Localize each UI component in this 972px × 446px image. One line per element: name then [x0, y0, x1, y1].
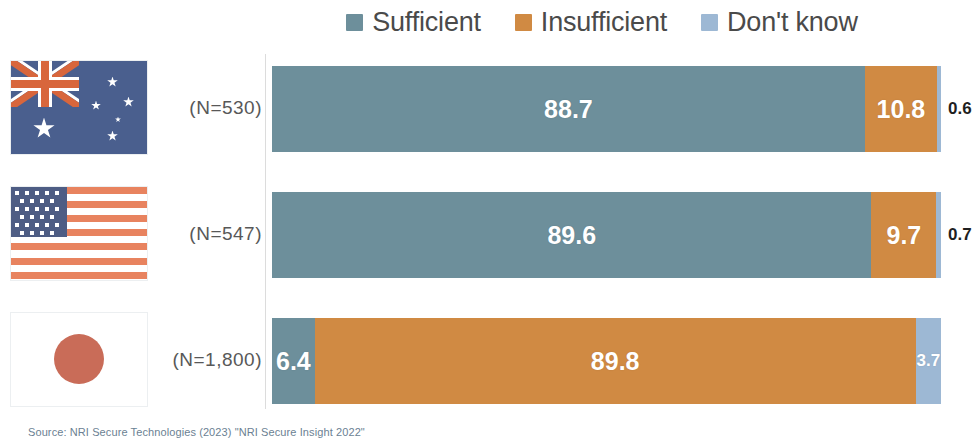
segment-value-sufficient: 88.7	[544, 95, 593, 124]
legend-item-insufficient: Insufficient	[515, 7, 667, 38]
legend-swatch-dont-know	[701, 14, 718, 31]
segment-value-insufficient: 9.7	[886, 221, 921, 250]
bar-japan: 6.4 89.8 3.7	[272, 318, 941, 404]
japan-flag-cell	[8, 309, 150, 409]
segment-dont-know[interactable]: 0.7	[936, 192, 941, 278]
segment-value-dont-know: 0.7	[948, 225, 972, 245]
commonwealth-star-icon	[33, 118, 55, 140]
southern-cross-star-icon	[91, 101, 101, 111]
australia-flag-icon	[11, 61, 147, 154]
legend-item-dont-know: Don't know	[701, 7, 858, 38]
row-label-japan: (N=1,800)	[150, 300, 262, 420]
legend-swatch-insufficient	[515, 14, 532, 31]
segment-value-insufficient: 10.8	[877, 95, 926, 124]
legend-label-dont-know: Don't know	[727, 7, 858, 38]
legend-label-sufficient: Sufficient	[372, 7, 481, 38]
row-label-australia: (N=530)	[150, 48, 262, 168]
united-states-flag-cell	[8, 183, 150, 283]
southern-cross-star-icon	[115, 117, 121, 123]
japan-flag-icon	[11, 313, 147, 406]
segment-value-sufficient: 6.4	[276, 347, 311, 376]
chart-row-united-states: (N=547) 89.6 9.7 0.7	[0, 174, 965, 294]
bar-united-states: 89.6 9.7 0.7	[272, 192, 941, 278]
stars-canton	[11, 187, 67, 237]
row-label-united-states: (N=547)	[150, 174, 262, 294]
segment-sufficient[interactable]: 89.6	[272, 192, 871, 278]
bar-australia: 88.7 10.8 0.6	[272, 66, 941, 152]
segment-insufficient[interactable]: 10.8	[865, 66, 937, 152]
southern-cross-star-icon	[107, 77, 118, 88]
segment-sufficient[interactable]: 88.7	[272, 66, 865, 152]
australia-flag-cell	[8, 57, 150, 157]
segment-insufficient[interactable]: 89.8	[315, 318, 916, 404]
segment-value-dont-know: 3.7	[916, 351, 940, 371]
legend-item-sufficient: Sufficient	[346, 7, 481, 38]
union-jack-canton	[11, 61, 79, 107]
chart-row-japan: (N=1,800) 6.4 89.8 3.7	[0, 300, 965, 420]
southern-cross-star-icon	[123, 97, 134, 108]
chart-row-australia: (N=530) 88.7 10.8 0.6	[0, 48, 965, 168]
segment-value-dont-know: 0.6	[948, 99, 972, 119]
segment-value-insufficient: 89.8	[591, 347, 640, 376]
segment-insufficient[interactable]: 9.7	[871, 192, 936, 278]
segment-dont-know[interactable]: 0.6	[937, 66, 941, 152]
segment-sufficient[interactable]: 6.4	[272, 318, 315, 404]
southern-cross-star-icon	[107, 131, 118, 142]
chart-legend: Sufficient Insufficient Don't know	[272, 2, 932, 42]
hinomaru-disc-icon	[54, 334, 104, 384]
legend-swatch-sufficient	[346, 14, 363, 31]
source-note: Source: NRI Secure Technologies (2023) "…	[28, 426, 365, 438]
legend-label-insufficient: Insufficient	[541, 7, 667, 38]
segment-value-sufficient: 89.6	[547, 221, 596, 250]
segment-dont-know[interactable]: 3.7	[916, 318, 941, 404]
stacked-bar-chart: (N=530) 88.7 10.8 0.6	[0, 48, 965, 408]
united-states-flag-icon	[11, 187, 147, 280]
